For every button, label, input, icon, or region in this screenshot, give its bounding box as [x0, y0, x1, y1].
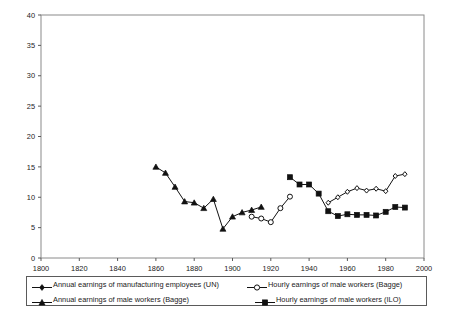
- y-tick-label: 20: [27, 132, 35, 141]
- square-marker: [345, 212, 350, 217]
- legend-label-bagge-annual: Annual earnings of male workers (Bagge): [53, 294, 189, 305]
- x-tick-label: 1900: [224, 264, 240, 273]
- plot-border: [41, 15, 424, 258]
- x-tick-label: 2000: [416, 264, 432, 273]
- square-marker: [307, 182, 312, 187]
- y-tick-label: 40: [27, 11, 35, 20]
- x-tick-label: 1840: [109, 264, 125, 273]
- circle-marker: [259, 216, 264, 221]
- x-axis-tick-labels: 1800182018401860188019001920194019601980…: [33, 264, 432, 273]
- square-marker: [374, 213, 379, 218]
- x-tick-label: 1800: [33, 264, 49, 273]
- y-axis-tick-labels: 0510152025303540: [27, 11, 35, 263]
- plot-frame: [41, 15, 424, 258]
- square-marker: [393, 204, 398, 209]
- legend-label-bagge-hourly: Hourly earnings of male workers (Bagge): [268, 279, 402, 290]
- legend-label-un: Annual earnings of manufacturing employe…: [53, 279, 219, 290]
- circle-marker: [278, 206, 283, 211]
- x-tick-label: 1860: [148, 264, 164, 273]
- square-icon: [254, 294, 276, 305]
- circle-marker: [268, 220, 273, 225]
- square-marker: [326, 209, 331, 214]
- square-marker: [402, 205, 407, 210]
- square-marker: [287, 175, 292, 180]
- x-tick-label: 1820: [71, 264, 87, 273]
- y-tick-label: 15: [27, 163, 35, 172]
- square-marker: [297, 182, 302, 187]
- circle-marker: [287, 194, 292, 199]
- legend-item-bagge-hourly[interactable]: Hourly earnings of male workers (Bagge): [242, 277, 428, 292]
- chart-legend: Annual earnings of manufacturing employe…: [26, 276, 427, 306]
- square-marker: [335, 214, 340, 219]
- square-marker: [316, 191, 321, 196]
- y-tick-label: 25: [27, 102, 35, 111]
- x-tick-label: 1980: [377, 264, 393, 273]
- chart-container: 0510152025303540 18001820184018601880190…: [0, 0, 457, 318]
- x-tick-label: 1880: [186, 264, 202, 273]
- legend-item-bagge-annual[interactable]: Annual earnings of male workers (Bagge): [27, 292, 242, 307]
- legend-item-un[interactable]: Annual earnings of manufacturing employe…: [27, 277, 242, 292]
- square-marker: [354, 212, 359, 217]
- y-tick-label: 10: [27, 193, 35, 202]
- square-marker: [364, 212, 369, 217]
- legend-label-ilo: Hourly earnings of male workers (ILO): [276, 294, 401, 305]
- triangle-icon: [31, 294, 53, 305]
- chart-plot-area: 0510152025303540 18001820184018601880190…: [0, 0, 457, 318]
- x-tick-label: 1960: [339, 264, 355, 273]
- y-tick-label: 35: [27, 41, 35, 50]
- y-tick-label: 5: [31, 223, 35, 232]
- square-marker: [383, 209, 388, 214]
- y-tick-label: 0: [31, 254, 35, 263]
- circle-marker: [249, 214, 254, 219]
- x-tick-label: 1940: [301, 264, 317, 273]
- legend-item-ilo[interactable]: Hourly earnings of male workers (ILO): [242, 292, 428, 307]
- diamond-small-icon: [31, 279, 53, 290]
- x-tick-label: 1920: [263, 264, 279, 273]
- circle-icon: [246, 279, 268, 290]
- y-tick-label: 30: [27, 71, 35, 80]
